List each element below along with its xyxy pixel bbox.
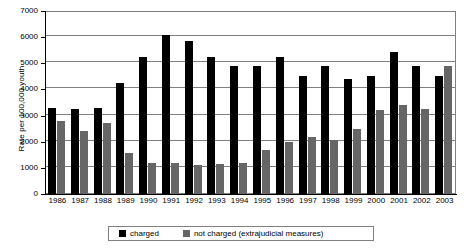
bar-not-charged <box>308 137 316 195</box>
bar-charged <box>162 35 170 194</box>
bar-group <box>92 11 115 194</box>
bar-group <box>228 11 251 194</box>
y-tick-label: 0 <box>2 190 38 198</box>
y-axis-title: Rate per 100,000 youth <box>17 44 26 174</box>
bar-group <box>205 11 228 194</box>
bar-group <box>160 11 183 194</box>
bar-charged <box>299 76 307 194</box>
bar-charged <box>344 79 352 194</box>
bar-not-charged <box>376 110 384 194</box>
bar-charged <box>276 57 284 194</box>
bar-group <box>433 11 456 194</box>
bar-group <box>297 11 320 194</box>
bar-not-charged <box>399 105 407 194</box>
bar-charged <box>253 66 261 194</box>
bar-not-charged <box>353 129 361 194</box>
bar-not-charged <box>330 140 338 194</box>
bar-group <box>137 11 160 194</box>
bar-not-charged <box>125 153 133 194</box>
bar-group <box>319 11 342 194</box>
bar-chart: Rate per 100,000 youth 01000200030004000… <box>0 0 467 248</box>
legend-label-not-charged: not charged (extrajudicial measures) <box>194 229 323 238</box>
bar-group <box>69 11 92 194</box>
bar-charged <box>435 76 443 194</box>
bar-not-charged <box>194 165 202 194</box>
bar-charged <box>207 57 215 194</box>
bar-charged <box>139 57 147 194</box>
bar-not-charged <box>148 163 156 194</box>
bar-series-container <box>46 11 456 194</box>
bar-group <box>342 11 365 194</box>
bar-charged <box>321 66 329 194</box>
bar-not-charged <box>216 164 224 194</box>
bar-group <box>388 11 411 194</box>
legend-label-charged: charged <box>130 229 159 238</box>
bar-group <box>274 11 297 194</box>
bar-not-charged <box>171 163 179 194</box>
bar-not-charged <box>285 142 293 194</box>
x-axis-tick-labels: 1986198719881989199019911992199319941995… <box>46 197 456 209</box>
bar-not-charged <box>444 66 452 194</box>
bar-charged <box>48 108 56 194</box>
y-tick-label: 7000 <box>2 7 38 15</box>
black-square-swatch-icon <box>119 230 126 237</box>
bar-charged <box>116 83 124 194</box>
legend-item-charged: charged <box>119 229 159 238</box>
bar-group <box>365 11 388 194</box>
bar-charged <box>71 109 79 194</box>
bar-group <box>114 11 137 194</box>
bar-charged <box>230 66 238 194</box>
bar-group <box>251 11 274 194</box>
bar-not-charged <box>421 109 429 194</box>
bar-not-charged <box>80 131 88 194</box>
bar-group <box>183 11 206 194</box>
bar-not-charged <box>239 163 247 194</box>
bar-charged <box>390 52 398 194</box>
bar-group <box>410 11 433 194</box>
y-tick-label: 6000 <box>2 33 38 41</box>
x-tick-label: 2003 <box>432 197 458 205</box>
x-axis-line <box>45 194 457 195</box>
bar-charged <box>367 76 375 194</box>
gray-square-swatch-icon <box>183 230 190 237</box>
legend-item-not-charged: not charged (extrajudicial measures) <box>183 229 323 238</box>
bar-group <box>46 11 69 194</box>
bar-charged <box>94 108 102 194</box>
chart-legend: charged not charged (extrajudicial measu… <box>108 226 374 241</box>
bar-not-charged <box>262 150 270 194</box>
bar-charged <box>412 66 420 194</box>
bar-charged <box>185 41 193 194</box>
bar-not-charged <box>57 121 65 194</box>
bar-not-charged <box>103 123 111 194</box>
